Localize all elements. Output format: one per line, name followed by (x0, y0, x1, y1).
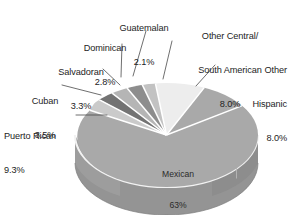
pie-label-other-hispanic-line1: Other (205, 65, 287, 76)
pie-label-mexican: Mexican 63% (143, 148, 213, 215)
pie-label-other-central-south-american-line1: Other Central/ (175, 31, 285, 42)
pie-label-puerto-rican-name: Puerto Rican (4, 131, 76, 142)
pie-label-puerto-rican: Puerto Rican 9.3% (4, 109, 76, 199)
pie-chart-figure: Guatemalan 2.1% Dominican 2.8% Salvadora… (0, 0, 289, 215)
pie-label-other-hispanic-value: 8.0% (205, 133, 287, 144)
pie-label-mexican-value: 63% (143, 200, 213, 210)
pie-label-other-hispanic-line2: Hispanic (205, 99, 287, 110)
pie-label-other-hispanic: Other Hispanic 8.0% (205, 43, 287, 166)
pie-label-cuban-name: Cuban (15, 96, 75, 107)
pie-label-mexican-name: Mexican (143, 169, 213, 179)
pie-label-puerto-rican-value: 9.3% (4, 165, 76, 176)
